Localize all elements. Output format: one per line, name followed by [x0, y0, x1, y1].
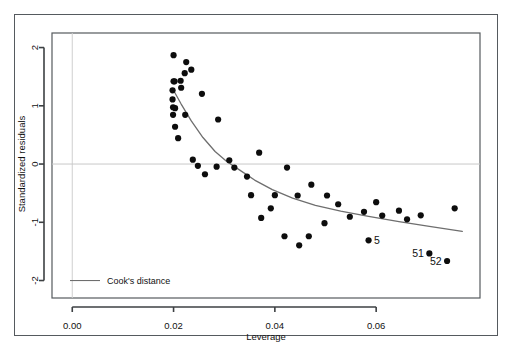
data-point: [379, 212, 385, 218]
data-point: [175, 135, 181, 141]
data-point: [170, 52, 176, 58]
data-point: [296, 242, 302, 248]
data-point: [444, 258, 450, 264]
data-point: [182, 112, 188, 118]
data-point: [248, 192, 254, 198]
x-axis-tick-label: 0.06: [367, 320, 386, 331]
data-point: [171, 78, 177, 84]
data-point: [183, 59, 189, 65]
y-axis-tick-label: -2: [30, 276, 41, 284]
data-point: [306, 233, 312, 239]
data-point: [418, 212, 424, 218]
data-point: [182, 70, 188, 76]
residuals-vs-leverage-plot: 210-1-2Standardized residuals0.000.020.0…: [0, 0, 512, 352]
data-point: [404, 216, 410, 222]
data-point: [295, 192, 301, 198]
y-axis-tick-label: 2: [30, 45, 41, 50]
data-point: [169, 96, 175, 102]
data-point: [258, 215, 264, 221]
data-point: [226, 157, 232, 163]
data-point: [215, 116, 221, 122]
data-point: [188, 67, 194, 73]
data-point: [202, 171, 208, 177]
x-axis-title: Leverage: [246, 331, 286, 342]
data-point: [169, 87, 175, 93]
data-point: [452, 205, 458, 211]
data-point: [396, 208, 402, 214]
data-point: [244, 173, 250, 179]
outlier-point-label: 51: [412, 247, 424, 259]
data-point: [214, 164, 220, 170]
data-point: [190, 157, 196, 163]
y-axis-tick-label: 0: [30, 161, 41, 166]
x-axis-tick-label: 0.02: [164, 320, 183, 331]
x-axis-tick-label: 0.04: [266, 320, 285, 331]
data-point: [268, 205, 274, 211]
data-point: [361, 209, 367, 215]
data-point: [231, 164, 237, 170]
figure-container: 210-1-2Standardized residuals0.000.020.0…: [0, 0, 512, 352]
data-point: [172, 105, 178, 111]
data-point: [256, 150, 262, 156]
data-point: [199, 91, 205, 97]
y-axis-title: Standardized residuals: [17, 115, 28, 212]
data-point: [347, 214, 353, 220]
data-point: [170, 112, 176, 118]
x-axis-tick-label: 0.00: [63, 320, 82, 331]
data-point: [321, 220, 327, 226]
outlier-point-label: 5: [374, 234, 380, 246]
data-point: [178, 78, 184, 84]
data-point: [172, 124, 178, 130]
data-point: [178, 85, 184, 91]
outlier-point-label: 52: [430, 255, 442, 267]
data-point: [308, 182, 314, 188]
data-point: [365, 237, 371, 243]
data-point: [373, 199, 379, 205]
data-point: [335, 201, 341, 207]
data-point: [284, 164, 290, 170]
y-axis-tick-label: -1: [30, 218, 41, 226]
data-point: [281, 233, 287, 239]
data-point: [272, 192, 278, 198]
data-point: [195, 163, 201, 169]
data-point: [324, 192, 330, 198]
y-axis-tick-label: 1: [30, 103, 41, 108]
legend-label-cooks-distance: Cook's distance: [107, 276, 170, 286]
